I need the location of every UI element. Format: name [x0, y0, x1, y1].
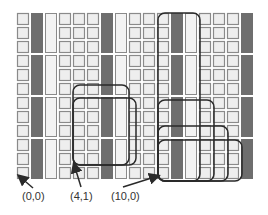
light-bar [186, 14, 197, 53]
grid-cell [60, 28, 71, 39]
grid-cell [228, 84, 239, 95]
grid-cell [228, 168, 239, 179]
dark-bar [172, 56, 183, 95]
grid-cell [158, 28, 169, 39]
grid-cell [214, 168, 225, 179]
grid-cell [144, 140, 155, 151]
grid-cell [228, 126, 239, 137]
light-bar [46, 56, 57, 95]
dark-bar [32, 140, 43, 179]
grid-cell [130, 56, 141, 67]
grid-cell [130, 28, 141, 39]
grid-cell [200, 126, 211, 137]
grid-cell [74, 70, 85, 81]
light-bar [46, 140, 57, 179]
grid-cell [60, 70, 71, 81]
grid-cell [88, 154, 99, 165]
grid-cell [60, 14, 71, 25]
grid-cell [18, 112, 29, 123]
grid-cell [144, 98, 155, 109]
label-10-0: (10,0) [111, 190, 140, 202]
dark-bar [172, 14, 183, 53]
dark-bar [242, 140, 253, 179]
light-bar [116, 14, 127, 53]
grid-cell [214, 98, 225, 109]
grid-cell [60, 98, 71, 109]
grid-cell [144, 28, 155, 39]
grid-cell [60, 112, 71, 123]
grid-cell [60, 168, 71, 179]
grid-cell [200, 70, 211, 81]
grid-cell [144, 14, 155, 25]
light-bar [46, 98, 57, 137]
grid-cell [60, 42, 71, 53]
grid-cell [158, 140, 169, 151]
dark-bar [32, 98, 43, 137]
grid-cell [88, 168, 99, 179]
grid-cell [130, 126, 141, 137]
grid-cell [214, 126, 225, 137]
grid-cell [228, 28, 239, 39]
grid-cell [130, 42, 141, 53]
grid-cell [214, 28, 225, 39]
light-bar [116, 98, 127, 137]
grid-cell [200, 56, 211, 67]
grid-cell [88, 70, 99, 81]
grid-cell [88, 126, 99, 137]
grid-cell [228, 98, 239, 109]
grid-cell [74, 140, 85, 151]
grid-cell [130, 14, 141, 25]
grid-cell [88, 98, 99, 109]
grid-cells [18, 14, 253, 179]
grid-cell [144, 154, 155, 165]
grid-cell [200, 98, 211, 109]
grid-cell [74, 14, 85, 25]
grid-cell [158, 126, 169, 137]
grid-cell [18, 70, 29, 81]
grid-cell [88, 56, 99, 67]
grid-cell [200, 140, 211, 151]
grid-cell [214, 14, 225, 25]
grid-cell [18, 84, 29, 95]
grid-cell [200, 14, 211, 25]
grid-cell [228, 140, 239, 151]
grid-cell [130, 70, 141, 81]
grid-cell [88, 14, 99, 25]
dark-bar [102, 14, 113, 53]
grid-cell [200, 154, 211, 165]
grid-cell [130, 140, 141, 151]
grid-cell [214, 140, 225, 151]
grid-cell [60, 84, 71, 95]
grid-cell [200, 112, 211, 123]
grid-cell [228, 42, 239, 53]
light-bar [186, 98, 197, 137]
dark-bar [32, 14, 43, 53]
grid-cell [18, 56, 29, 67]
light-bar [46, 14, 57, 53]
grid-cell [130, 112, 141, 123]
grid-cell [18, 42, 29, 53]
grid-cell [74, 112, 85, 123]
dark-bar [102, 56, 113, 95]
grid-cell [18, 28, 29, 39]
grid-cell [228, 56, 239, 67]
grid-cell [18, 98, 29, 109]
grid-cell [200, 84, 211, 95]
grid-cell [214, 112, 225, 123]
grid-cell [18, 140, 29, 151]
grid-cell [158, 70, 169, 81]
dark-bar [242, 14, 253, 53]
grid-cell [144, 84, 155, 95]
light-bar [186, 140, 197, 179]
grid-cell [130, 168, 141, 179]
dark-bar [102, 98, 113, 137]
grid-cell [130, 84, 141, 95]
dark-bar [32, 56, 43, 95]
grid-cell [228, 14, 239, 25]
grid-cell [88, 112, 99, 123]
dark-bar [242, 56, 253, 95]
grid-canvas [0, 0, 268, 215]
grid-cell [158, 84, 169, 95]
dark-bar [172, 140, 183, 179]
grid-cell [228, 154, 239, 165]
